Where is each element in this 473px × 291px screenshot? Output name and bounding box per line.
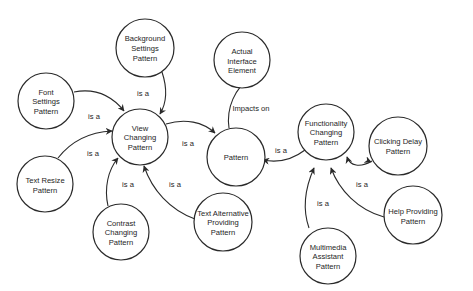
edge-background-to-view — [160, 72, 166, 114]
svg-text:Settings: Settings — [32, 97, 60, 106]
svg-text:Pattern: Pattern — [314, 138, 338, 147]
svg-text:Element: Element — [228, 66, 257, 75]
svg-text:Pattern: Pattern — [34, 107, 58, 116]
edge-textalt-to-view — [144, 166, 195, 219]
svg-text:Pattern: Pattern — [33, 186, 57, 195]
edge-label-background-view: is a — [137, 89, 150, 98]
node-functionality-changing-pattern[interactable]: Functionality Changing Pattern — [298, 104, 354, 160]
svg-text:Pattern: Pattern — [316, 262, 340, 271]
edge-resize-to-view — [58, 131, 112, 158]
node-clicking-delay-pattern[interactable]: Clicking Delay Pattern — [369, 117, 427, 175]
svg-text:Pattern: Pattern — [386, 147, 410, 156]
edge-font-to-view — [74, 91, 124, 111]
edge-label-textalt-view: is a — [169, 180, 182, 189]
svg-text:Actual: Actual — [231, 47, 252, 56]
svg-text:Pattern: Pattern — [401, 217, 425, 226]
node-text-alternative-providing-pattern[interactable]: Text Alternative Providing Pattern — [194, 193, 252, 251]
edge-label-font-view: is a — [88, 112, 101, 121]
svg-text:Pattern: Pattern — [109, 238, 133, 247]
svg-text:Pattern: Pattern — [211, 228, 235, 237]
svg-text:Pattern: Pattern — [224, 153, 248, 162]
svg-text:Pattern: Pattern — [128, 143, 152, 152]
node-actual-interface-element[interactable]: Actual Interface Element — [214, 32, 270, 88]
svg-text:Contrast: Contrast — [107, 219, 137, 228]
edge-label-resize-view: is a — [87, 149, 100, 158]
edge-contrast-to-view — [106, 158, 118, 206]
svg-text:Clicking Delay: Clicking Delay — [374, 137, 422, 146]
node-background-settings-pattern[interactable]: Background Settings Pattern — [116, 19, 174, 77]
node-view-changing-pattern[interactable]: View Changing Pattern — [112, 109, 168, 165]
edge-multimedia-to-functionality — [305, 168, 314, 228]
node-font-settings-pattern[interactable]: Font Settings Pattern — [18, 73, 74, 129]
edge-label-functionality-pattern: is a — [275, 146, 288, 155]
edge-clicking-to-functionality-line — [347, 157, 372, 165]
svg-text:Changing: Changing — [124, 133, 157, 142]
pattern-diagram: is a is a is a is a is a is a Impacts on… — [0, 0, 473, 291]
svg-text:Pattern: Pattern — [133, 54, 157, 63]
svg-text:Changing: Changing — [105, 228, 138, 237]
svg-text:Assistant: Assistant — [313, 252, 345, 261]
node-help-providing-pattern[interactable]: Help Providing Pattern — [384, 186, 442, 244]
svg-text:Text Resize: Text Resize — [25, 176, 64, 185]
edge-label-multimedia-functionality: is a — [317, 199, 330, 208]
edge-label-pattern-actual: Impacts on — [232, 104, 269, 113]
edge-label-help-functionality: is a — [356, 180, 369, 189]
edge-label-view-pattern: is a — [182, 139, 195, 148]
svg-text:Interface: Interface — [227, 57, 257, 66]
node-text-resize-pattern[interactable]: Text Resize Pattern — [17, 156, 73, 212]
edge-view-to-pattern — [166, 121, 215, 133]
svg-text:View: View — [132, 124, 149, 133]
node-contrast-changing-pattern[interactable]: Contrast Changing Pattern — [93, 204, 149, 260]
edge-help-to-functionality — [331, 168, 384, 217]
svg-text:Font: Font — [38, 88, 54, 97]
node-multimedia-assistant-pattern[interactable]: Multimedia Assistant Pattern — [300, 228, 356, 284]
svg-text:Text Alternative: Text Alternative — [197, 209, 249, 218]
node-pattern[interactable]: Pattern — [207, 128, 265, 186]
svg-text:Settings: Settings — [131, 44, 159, 53]
svg-text:Multimedia: Multimedia — [310, 243, 347, 252]
svg-text:Changing: Changing — [310, 128, 343, 137]
edge-label-contrast-view: is a — [122, 180, 135, 189]
svg-text:Help Providing: Help Providing — [388, 207, 437, 216]
svg-text:Functionality: Functionality — [305, 119, 348, 128]
svg-text:Providing: Providing — [207, 218, 239, 227]
svg-text:Background: Background — [125, 34, 166, 43]
